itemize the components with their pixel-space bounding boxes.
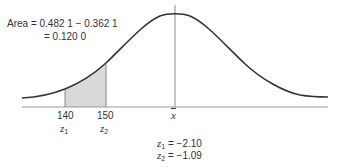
area-label-line2: = 0.120 0 — [44, 31, 86, 43]
tick-140: 140 — [57, 110, 74, 122]
z1-axis-label: z1 — [60, 122, 68, 138]
tick-150: 150 — [97, 110, 114, 122]
z2-axis-label: z2 — [100, 122, 108, 138]
mean-symbol: x — [171, 109, 176, 121]
shaded-area — [65, 63, 106, 107]
z2-result: z2 = −1.09 — [157, 149, 202, 165]
area-label-line1: Area = 0.482 1 − 0.362 1 — [7, 18, 118, 30]
